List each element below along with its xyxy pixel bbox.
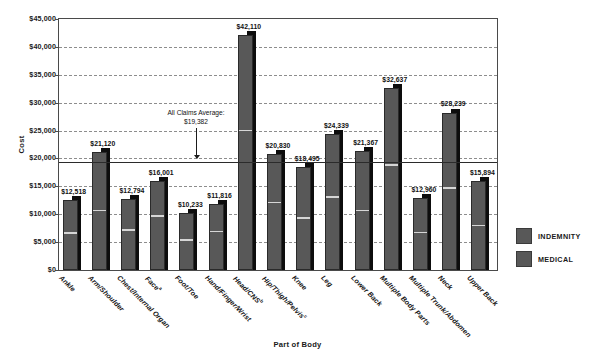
bar-stacked[interactable] (471, 181, 486, 270)
bar-stacked[interactable] (384, 88, 399, 270)
bar-value-label: $20,830 (258, 142, 298, 149)
bar-series-divider (268, 202, 281, 203)
y-axis-tick (55, 47, 59, 48)
bar-value-label: $15,894 (462, 169, 502, 176)
y-axis-tick (55, 270, 59, 271)
y-axis-tick-label: $10,000 (6, 209, 56, 218)
bar-series-divider (297, 217, 310, 218)
y-axis-tick-label: $0 (6, 265, 56, 274)
bar-value-label: $42,110 (229, 23, 269, 30)
bar-value-label: $12,794 (112, 187, 152, 194)
bar-stacked[interactable] (121, 199, 136, 270)
bar-stacked[interactable] (238, 35, 253, 270)
y-axis-tick-label: $40,000 (6, 41, 56, 50)
bar-value-label: $28,239 (433, 100, 473, 107)
bar-value-label: $18,495 (287, 155, 327, 162)
legend: INDEMNITYMEDICAL (516, 228, 592, 274)
bar-stacked[interactable] (413, 198, 428, 270)
x-axis-tick-label: Ankle (58, 274, 77, 293)
bar-stacked[interactable] (179, 213, 194, 270)
x-axis-tick-label: Leg (320, 274, 334, 288)
bar-stacked[interactable] (267, 154, 282, 270)
x-axis-tick-label: Neck (437, 274, 454, 291)
bar-stacked[interactable] (63, 200, 78, 270)
y-axis-tick (55, 131, 59, 132)
annotation-line-2: $19,382 (184, 118, 208, 125)
bar-series-divider (443, 187, 456, 188)
legend-swatch (516, 251, 532, 267)
bar-series-divider (356, 210, 369, 211)
bar-value-label: $12,518 (54, 188, 94, 195)
x-axis-title: Part of Body (0, 340, 595, 349)
x-axis-tick-label: Knee (291, 274, 308, 291)
bar-value-label: $24,339 (316, 122, 356, 129)
bar-value-label: $16,001 (141, 169, 181, 176)
bar-value-label: $11,816 (200, 192, 240, 199)
y-axis-tick (55, 19, 59, 20)
legend-item[interactable]: INDEMNITY (516, 228, 592, 244)
bar-stacked[interactable] (92, 152, 107, 270)
bar-series-divider (210, 231, 223, 232)
bar-group[interactable] (296, 19, 320, 270)
bar-value-label: $32,637 (375, 76, 415, 83)
bar-series-divider (93, 210, 106, 211)
legend-swatch (516, 228, 532, 244)
y-axis-tick-label: $20,000 (6, 153, 56, 162)
bar-group[interactable] (442, 19, 466, 270)
bar-group[interactable] (384, 19, 408, 270)
y-axis-tick-label: $15,000 (6, 181, 56, 190)
x-axis-tick-label: Multiple Trunk/Abdomen (408, 274, 472, 338)
y-axis-tick (55, 186, 59, 187)
x-axis-tick-label: Chest/Internal Organ (116, 274, 171, 329)
y-axis-tick-labels: $0$5,000$10,000$15,000$20,000$25,000$30,… (0, 0, 56, 361)
bar-group[interactable] (471, 19, 495, 270)
average-reference-line (59, 162, 497, 163)
y-axis-tick-label: $45,000 (6, 14, 56, 23)
bar-stacked[interactable] (325, 134, 340, 270)
legend-item[interactable]: MEDICAL (516, 251, 592, 267)
y-axis-tick-label: $30,000 (6, 97, 56, 106)
bar-value-label: $10,233 (170, 201, 210, 208)
bar-group[interactable] (209, 19, 233, 270)
y-axis-tick-label: $35,000 (6, 69, 56, 78)
bar-stacked[interactable] (209, 204, 224, 270)
bar-series-divider (472, 225, 485, 226)
y-axis-tick-label: $5,000 (6, 237, 56, 246)
bar-series-divider (180, 239, 193, 240)
x-axis-tick-label: Lower Back (350, 274, 383, 307)
bar-group[interactable] (413, 19, 437, 270)
bar-group[interactable] (179, 19, 203, 270)
y-axis-tick (55, 158, 59, 159)
bar-series-divider (385, 164, 398, 165)
bar-series-divider (64, 232, 77, 233)
bar-stacked[interactable] (442, 113, 457, 271)
all-claims-average-annotation: All Claims Average:$19,382 (146, 108, 246, 126)
y-axis-tick-label: $25,000 (6, 125, 56, 134)
bar-series-divider (326, 196, 339, 197)
bar-group[interactable] (121, 19, 145, 270)
y-axis-tick (55, 214, 59, 215)
legend-label: MEDICAL (538, 255, 573, 264)
y-axis-tick (55, 103, 59, 104)
x-axis-tick-label: Facea (144, 274, 163, 293)
bar-stacked[interactable] (150, 181, 165, 270)
cost-by-part-of-body-chart: Cost $0$5,000$10,000$15,000$20,000$25,00… (0, 0, 595, 361)
bar-value-label: $12,960 (404, 186, 444, 193)
bar-group[interactable] (150, 19, 174, 270)
x-axis-tick-label: Foot/Toe (174, 274, 200, 300)
legend-label: INDEMNITY (538, 232, 581, 241)
annotation-line-1: All Claims Average: (167, 109, 224, 116)
y-axis-tick (55, 242, 59, 243)
y-axis-tick (55, 75, 59, 76)
bar-stacked[interactable] (355, 151, 370, 270)
annotation-arrow-icon (196, 128, 197, 158)
bar-series-divider (151, 215, 164, 216)
bar-value-label: $21,120 (83, 140, 123, 147)
bar-value-label: $21,367 (346, 139, 386, 146)
bar-stacked[interactable] (296, 167, 311, 270)
bar-series-divider (239, 130, 252, 131)
bar-series-divider (122, 229, 135, 230)
x-axis-tick-label: Multiple Body Parts (379, 274, 432, 327)
x-axis-tick-label: Upper Back (466, 274, 499, 307)
bar-series-divider (414, 232, 427, 233)
